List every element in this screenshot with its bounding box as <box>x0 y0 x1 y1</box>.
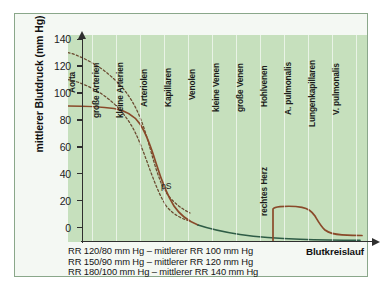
vessel-label-kleine-arterien: kleine Arterien <box>115 62 125 118</box>
annotation-rechtes-herz: rechtes Herz <box>260 167 269 216</box>
y-tick <box>77 39 83 40</box>
vessel-label-v-pulmonalis: V. pulmonalis <box>331 63 341 115</box>
y-tick-label: 20 <box>45 195 71 207</box>
annotation-ps: pS <box>161 181 172 191</box>
y-tick-label: 80 <box>45 114 71 126</box>
vessel-label-kleine-venen: kleine Venen <box>211 63 221 112</box>
curve-solid-systemic <box>68 106 198 225</box>
column-separator <box>140 35 141 242</box>
figure-caption: Blutkreislauf <box>306 246 364 257</box>
vessel-label-venolen: Venolen <box>187 69 197 100</box>
legend-block: RR 120/80 mm Hg – mittlerer RR 100 mm Hg… <box>68 246 368 278</box>
vessel-label-kapillaren: Kapillaren <box>163 68 173 107</box>
y-tick <box>77 146 83 147</box>
curve-pulmonary <box>273 206 362 240</box>
legend-line: RR 180/100 mm Hg – mittlerer RR 140 mm H… <box>68 267 368 278</box>
column-separator <box>356 35 357 242</box>
y-tick-label: 0 <box>45 222 71 234</box>
figure-screenshot: pS rechtes Herz Aorta große Arterien kle… <box>0 0 382 302</box>
x-axis-arrow-icon <box>372 238 380 246</box>
y-tick-label: 40 <box>45 168 71 180</box>
column-separator <box>188 35 189 242</box>
column-separator <box>164 35 165 242</box>
vessel-label-a-pulmonalis: A. pulmonalis <box>283 62 293 115</box>
vessel-label-grosse-venen: große Venen <box>235 63 245 112</box>
y-tick <box>77 200 83 201</box>
y-axis-line <box>82 38 83 243</box>
curve-solid-venous <box>198 225 360 240</box>
y-tick-label: 140 <box>45 33 71 45</box>
y-tick-label: 120 <box>45 60 71 72</box>
figure-card: pS rechtes Herz Aorta große Arterien kle… <box>14 13 368 277</box>
y-tick <box>77 119 83 120</box>
y-tick <box>77 92 83 93</box>
y-tick <box>77 65 83 66</box>
vessel-label-grosse-arterien: große Arterien <box>91 63 101 118</box>
y-tick-label: 100 <box>45 87 71 99</box>
vessel-label-hohlvenen: Hohlvenen <box>259 66 269 107</box>
y-tick <box>77 227 83 228</box>
vessel-label-lungenkapillaren: Lungenkapillaren <box>307 60 317 127</box>
x-axis-line <box>81 241 374 242</box>
y-tick-label: 60 <box>45 141 71 153</box>
plot-area: pS rechtes Herz Aorta große Arterien kle… <box>68 35 367 242</box>
y-tick <box>77 173 83 174</box>
y-axis-title: mittlerer Blutdruck (mm Hg) <box>33 9 45 159</box>
vessel-label-arteriolen: Arteriolen <box>139 69 149 107</box>
